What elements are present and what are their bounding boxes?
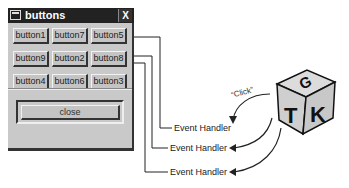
event-handler-label-3: Event Handler <box>170 167 227 177</box>
separator <box>8 88 132 90</box>
buttons-window: buttons X button1 button7 button5 button… <box>8 8 134 151</box>
title-bar[interactable]: buttons X <box>8 8 134 23</box>
window-menu-icon[interactable] <box>10 10 21 20</box>
button1[interactable]: button1 <box>13 28 49 44</box>
window-close-button[interactable]: X <box>118 9 132 22</box>
button5[interactable]: button5 <box>91 28 127 44</box>
svg-text:K: K <box>310 102 326 127</box>
button7[interactable]: button7 <box>52 28 88 44</box>
button9[interactable]: button9 <box>13 51 49 67</box>
button8[interactable]: button8 <box>91 51 127 67</box>
event-handler-label-1: Event Handler <box>174 123 231 133</box>
close-button[interactable]: close <box>21 105 120 120</box>
window-title: buttons <box>25 8 65 23</box>
button2[interactable]: button2 <box>52 51 88 67</box>
svg-text:T: T <box>284 103 298 128</box>
close-button-frame: close <box>16 100 124 124</box>
event-handler-label-2: Event Handler <box>170 143 227 153</box>
gtk-logo-icon: G T K <box>277 70 335 134</box>
